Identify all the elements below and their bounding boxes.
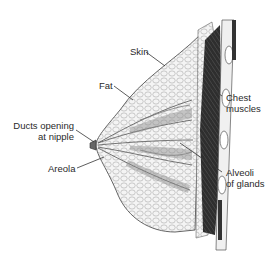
label-alveoli-line2: of glands — [226, 178, 265, 189]
label-areola: Areola — [48, 163, 75, 174]
breast-tissue — [96, 35, 200, 232]
rib — [225, 46, 233, 64]
fat-pointer — [114, 86, 133, 100]
ducts-pointer — [76, 130, 94, 142]
label-alveoli-line1: Alveoli — [226, 167, 254, 178]
rib — [220, 131, 228, 149]
breast-anatomy-diagram: Skin Fat Chest muscles Ducts opening at … — [0, 0, 275, 255]
label-skin: Skin — [130, 46, 148, 57]
label-ducts-line1: Ducts opening — [13, 120, 74, 131]
skin-pointer — [146, 52, 165, 66]
label-ducts-line2: at nipple — [38, 131, 74, 142]
areola-pointer — [77, 157, 104, 168]
chest-wall — [196, 20, 236, 250]
label-chest-muscles-line1: Chest — [226, 92, 251, 103]
rib — [218, 176, 226, 194]
label-chest-muscles-line2: muscles — [226, 103, 261, 114]
label-fat: Fat — [99, 80, 113, 91]
